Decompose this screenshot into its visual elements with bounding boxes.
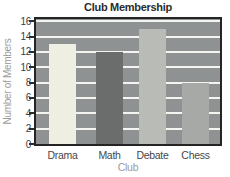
y-tick-label-4: 4 [9, 108, 31, 119]
y-tick-mark-14 [29, 36, 34, 38]
y-tick-label-12: 12 [9, 46, 31, 57]
y-tick-mark-4 [29, 112, 34, 114]
gridline-y16 [36, 20, 220, 22]
y-tick-label-0: 0 [9, 139, 31, 150]
club-membership-bar-chart: Club Membership Number of Members Club 0… [0, 0, 230, 177]
y-tick-label-10: 10 [9, 62, 31, 73]
y-tick-label-6: 6 [9, 92, 31, 103]
y-tick-mark-2 [29, 128, 34, 130]
bar-drama [49, 44, 76, 144]
gridline-y14 [36, 36, 220, 38]
bar-chess [182, 83, 209, 144]
y-tick-mark-10 [29, 66, 34, 68]
y-tick-label-2: 2 [9, 123, 31, 134]
y-tick-mark-12 [29, 51, 34, 53]
y-tick-mark-16 [29, 20, 34, 22]
y-tick-mark-0 [29, 143, 34, 145]
y-tick-label-14: 14 [9, 31, 31, 42]
bar-debate [139, 29, 166, 144]
plot-area [34, 17, 222, 146]
y-tick-label-8: 8 [9, 77, 31, 88]
x-axis-title: Club [34, 161, 222, 173]
y-tick-mark-6 [29, 97, 34, 99]
x-label-chess: Chess [171, 149, 221, 161]
x-label-drama: Drama [38, 149, 88, 161]
bar-math [96, 52, 123, 144]
y-tick-mark-8 [29, 82, 34, 84]
y-tick-label-16: 16 [9, 16, 31, 27]
chart-title: Club Membership [34, 1, 222, 13]
